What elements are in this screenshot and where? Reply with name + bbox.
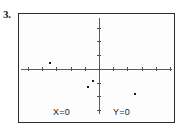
x-tick	[28, 67, 29, 71]
x-tick	[142, 67, 143, 71]
x-tick	[42, 67, 43, 71]
calculator-screen: X=0 Y=0	[18, 13, 175, 123]
y-tick	[97, 96, 101, 97]
data-point	[87, 86, 89, 88]
x-tick	[170, 67, 171, 71]
data-point	[92, 80, 94, 82]
y-axis	[99, 18, 100, 114]
x-tick	[127, 67, 128, 71]
data-point	[134, 93, 136, 95]
x-tick	[71, 67, 72, 71]
y-tick	[97, 55, 101, 56]
problem-number: 3.	[3, 8, 11, 20]
y-tick	[97, 28, 101, 29]
data-point	[49, 62, 51, 64]
x-tick	[113, 67, 114, 71]
y-tick	[97, 41, 101, 42]
plot-area: X=0 Y=0	[19, 14, 174, 122]
y-tick	[97, 83, 101, 84]
y-readout-label: Y=0	[113, 107, 130, 117]
y-tick	[97, 110, 101, 111]
problem-figure: 3. X=0 Y=0	[0, 0, 189, 132]
x-readout-label: X=0	[53, 107, 70, 117]
x-tick	[56, 67, 57, 71]
x-tick	[85, 67, 86, 71]
x-tick	[156, 67, 157, 71]
y-tick	[97, 69, 101, 70]
